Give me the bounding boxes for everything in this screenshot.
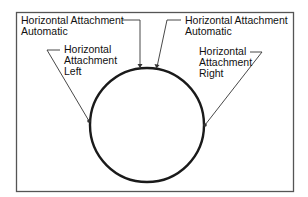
leader-auto-left <box>122 20 140 67</box>
leader-auto-right <box>157 20 181 67</box>
frame-border <box>17 13 294 192</box>
arrow-left-icon <box>87 119 91 123</box>
label-right: Horizontal Attachment Right <box>199 46 252 79</box>
label-auto-left: Horizontal Attachment Automatic <box>21 15 124 37</box>
label-left: Horizontal Attachment Left <box>64 44 117 77</box>
label-auto-right-line2: Automatic <box>185 26 288 37</box>
circle-shape <box>90 68 204 182</box>
label-left-line3: Left <box>64 66 117 77</box>
label-auto-left-line2: Automatic <box>21 26 124 37</box>
label-right-line3: Right <box>199 68 252 79</box>
arrow-right-icon <box>203 123 207 127</box>
label-auto-right: Horizontal Attachment Automatic <box>185 15 288 37</box>
